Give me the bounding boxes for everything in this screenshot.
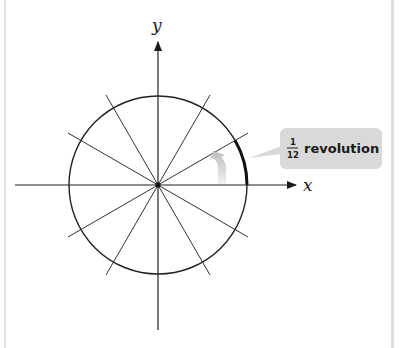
y-axis-label: y [151, 15, 162, 35]
origin-point [156, 183, 161, 188]
callout-pointer [249, 146, 282, 158]
callout-fraction-numerator: 1 [290, 137, 296, 147]
rotation-arrow-icon [210, 151, 226, 184]
highlighted-arc [235, 141, 247, 186]
callout-text: revolution [304, 141, 379, 156]
x-axis-label: x [303, 175, 313, 195]
circle-diagram: x y 1 12 revolution [0, 0, 400, 348]
callout-fraction-denominator: 12 [287, 150, 299, 160]
